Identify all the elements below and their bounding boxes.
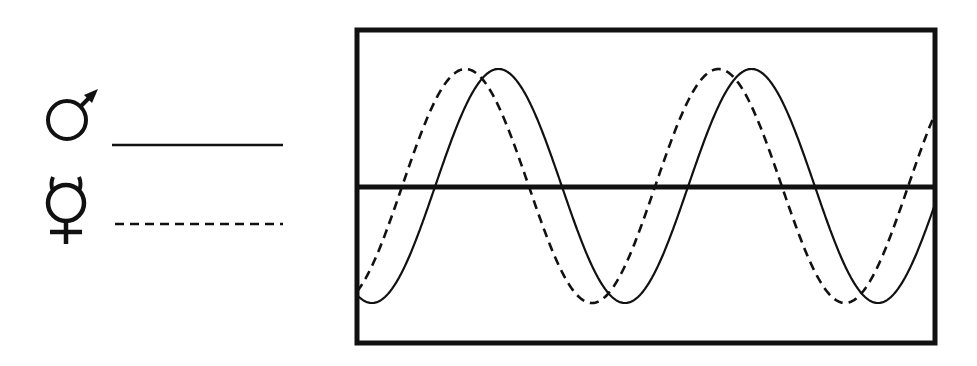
oscillation-diagram <box>0 0 977 366</box>
plot-area <box>357 30 935 343</box>
mercury-hermaphrodite-icon <box>48 177 84 244</box>
legend <box>48 89 283 244</box>
mars-male-icon <box>48 89 98 139</box>
